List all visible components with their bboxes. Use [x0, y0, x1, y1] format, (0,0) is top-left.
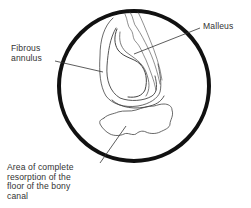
label-malleus: Malleus	[203, 22, 233, 32]
resorption-area-outline	[100, 104, 173, 136]
membrane-outline	[107, 28, 157, 100]
tympanic-sketch	[100, 12, 173, 136]
fibrous-annulus-outline	[100, 18, 161, 107]
label-resorption-area: Area of complete resorption of the floor…	[7, 163, 74, 201]
ridge-line-1	[125, 14, 156, 90]
label-fibrous-annulus: Fibrous annulus	[11, 44, 42, 63]
leader-lines	[55, 28, 200, 163]
leader-malleus	[134, 28, 200, 54]
